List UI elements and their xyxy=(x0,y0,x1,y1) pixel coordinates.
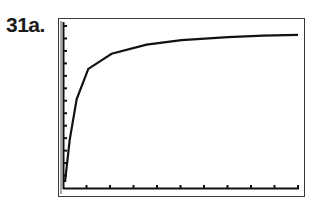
chart-plot xyxy=(0,0,313,203)
data-curve xyxy=(65,35,298,182)
